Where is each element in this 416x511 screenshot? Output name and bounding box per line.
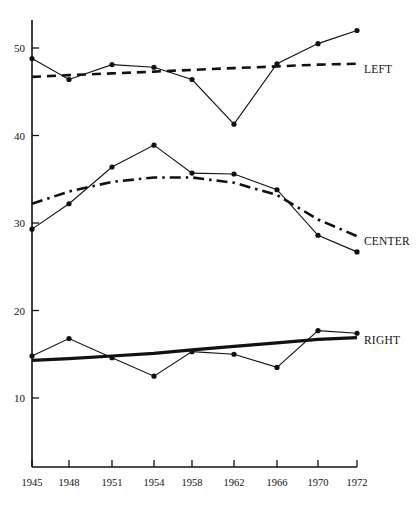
series-line (32, 145, 357, 252)
series-labels-group: LEFTCENTERRIGHT (364, 63, 410, 346)
chart-series-group (32, 31, 357, 377)
line-chart: 1020304050 19451948195119541958196219661… (0, 0, 416, 511)
x-tick-label: 1954 (144, 477, 166, 488)
series-line (32, 331, 357, 377)
data-point-marker (231, 122, 236, 127)
data-point-marker (151, 65, 156, 70)
y-tick-label: 20 (14, 305, 26, 317)
series-line (32, 64, 357, 77)
data-point-marker (189, 77, 194, 82)
x-tick-label: 1966 (267, 477, 288, 488)
data-point-marker (109, 355, 114, 360)
data-point-marker (231, 171, 236, 176)
data-point-marker (274, 61, 279, 66)
x-tick-label: 1962 (224, 477, 245, 488)
data-point-marker (354, 331, 359, 336)
data-point-marker (354, 28, 359, 33)
chart-container: 1020304050 19451948195119541958196219661… (0, 0, 416, 511)
data-point-marker (189, 349, 194, 354)
series-label-center: CENTER (364, 235, 410, 247)
y-tick-label: 40 (14, 130, 26, 142)
data-point-marker (151, 374, 156, 379)
series-label-right: RIGHT (364, 334, 400, 346)
data-point-marker (315, 41, 320, 46)
data-point-marker (315, 328, 320, 333)
data-point-marker (29, 353, 34, 358)
y-tick-label: 10 (14, 392, 26, 404)
data-point-marker (231, 352, 236, 357)
data-point-marker (109, 164, 114, 169)
x-tick-label: 1972 (347, 477, 368, 488)
series-line (32, 31, 357, 125)
data-point-marker (189, 171, 194, 176)
y-tick-label: 30 (14, 217, 26, 229)
data-point-marker (66, 201, 71, 206)
data-point-marker (151, 143, 156, 148)
data-point-marker (66, 77, 71, 82)
data-point-marker (109, 62, 114, 67)
series-label-left: LEFT (364, 63, 392, 75)
data-point-marker (29, 227, 34, 232)
series-line (32, 338, 357, 361)
y-axis-ticks: 1020304050 (14, 42, 39, 404)
data-point-marker (354, 249, 359, 254)
data-point-marker (66, 336, 71, 341)
data-point-marker (274, 365, 279, 370)
y-tick-label: 50 (14, 42, 26, 54)
x-tick-label: 1945 (22, 477, 43, 488)
x-tick-label: 1951 (102, 477, 123, 488)
data-point-marker (315, 233, 320, 238)
data-point-marker (29, 56, 34, 61)
x-axis-ticks: 194519481951195419581962196619701972 (22, 460, 368, 488)
x-tick-label: 1958 (182, 477, 203, 488)
chart-markers-group (29, 28, 359, 379)
data-point-marker (274, 187, 279, 192)
chart-axes (32, 20, 357, 467)
x-tick-label: 1948 (59, 477, 80, 488)
x-tick-label: 1970 (308, 477, 329, 488)
series-line (32, 178, 357, 237)
